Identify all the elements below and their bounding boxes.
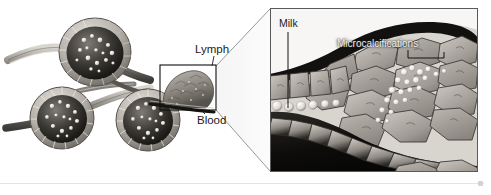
- label-milk: Milk: [279, 18, 298, 29]
- label-blood: Blood: [197, 115, 226, 127]
- figure-root: Lymph Blood Milk Microcalcifications: [0, 0, 491, 195]
- acinus-top: [59, 18, 131, 86]
- right-panel-artwork: [268, 8, 478, 182]
- page-rule: [0, 183, 484, 184]
- label-microcalcifications: Microcalcifications: [337, 39, 418, 49]
- label-lymph: Lymph: [195, 44, 229, 56]
- illustration-canvas: [0, 0, 491, 195]
- rule-endcap: [478, 181, 483, 186]
- acinus-lower-left: [30, 87, 94, 149]
